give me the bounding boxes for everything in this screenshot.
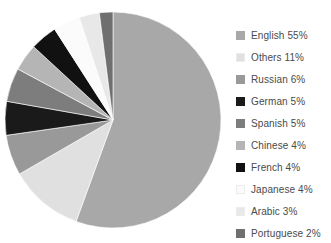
legend-item-label: Portuguese 2%: [251, 228, 321, 239]
chart-legend: English 55%Others 11%Russian 6%German 5%…: [236, 24, 331, 243]
pie-svg: [0, 0, 232, 243]
legend-item[interactable]: German 5%: [236, 90, 331, 112]
legend-item[interactable]: Russian 6%: [236, 68, 331, 90]
legend-item-label: French 4%: [251, 162, 300, 173]
legend-item[interactable]: Spanish 5%: [236, 112, 331, 134]
legend-swatch-icon: [236, 119, 245, 128]
pie-slice-group: [5, 12, 221, 228]
legend-swatch-icon: [236, 53, 245, 62]
legend-item-label: Japanese 4%: [251, 184, 313, 195]
legend-item-label: Chinese 4%: [251, 140, 306, 151]
legend-item-label: English 55%: [251, 30, 308, 41]
legend-swatch-icon: [236, 229, 245, 238]
legend-item[interactable]: French 4%: [236, 156, 331, 178]
legend-swatch-icon: [236, 185, 245, 194]
legend-item-label: German 5%: [251, 96, 305, 107]
pie-plot-area: [0, 0, 232, 243]
legend-swatch-icon: [236, 31, 245, 40]
legend-item-label: Russian 6%: [251, 74, 305, 85]
legend-item-label: Others 11%: [251, 52, 304, 63]
legend-item[interactable]: English 55%: [236, 24, 331, 46]
legend-item[interactable]: Others 11%: [236, 46, 331, 68]
legend-item-label: Spanish 5%: [251, 118, 305, 129]
legend-swatch-icon: [236, 97, 245, 106]
legend-swatch-icon: [236, 163, 245, 172]
legend-item[interactable]: Chinese 4%: [236, 134, 331, 156]
legend-swatch-icon: [236, 75, 245, 84]
legend-item[interactable]: Portuguese 2%: [236, 222, 331, 243]
legend-swatch-icon: [236, 207, 245, 216]
legend-item[interactable]: Japanese 4%: [236, 178, 331, 200]
legend-swatch-icon: [236, 141, 245, 150]
legend-item[interactable]: Arabic 3%: [236, 200, 331, 222]
pie-chart-figure: English 55%Others 11%Russian 6%German 5%…: [0, 0, 331, 243]
legend-item-label: Arabic 3%: [251, 206, 297, 217]
